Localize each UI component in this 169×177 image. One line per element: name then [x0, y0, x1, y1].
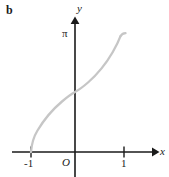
x-axis-label: x [160, 146, 165, 157]
coordinate-plot [0, 0, 169, 177]
origin-label: O [62, 157, 70, 168]
y-axis-label: y [77, 3, 82, 14]
x-tick-label-positive-one: 1 [121, 158, 127, 169]
figure-panel: b y x π -1 1 O [0, 0, 169, 177]
part-label: b [6, 4, 13, 16]
y-axis-arrow-icon [71, 17, 80, 25]
x-tick-label-negative-one: -1 [24, 158, 33, 169]
y-tick-label-pi: π [62, 28, 68, 39]
curve-upper-endpoint-tail [121, 33, 126, 36]
x-axis-arrow-icon [152, 148, 160, 157]
